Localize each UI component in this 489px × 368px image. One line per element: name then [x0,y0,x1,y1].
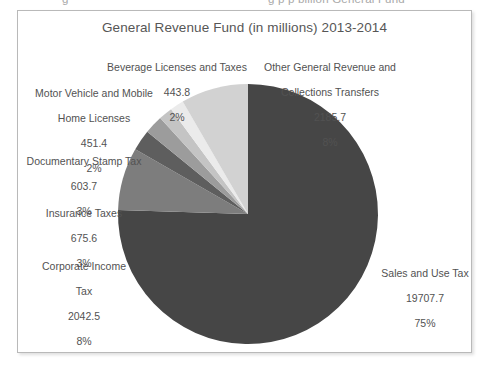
pie-label-other-general-name-line2: Collections Transfers [250,86,410,99]
pie-label-corporate-income-name-line2: Tax [9,285,159,298]
pie-label-sales-and-use-name: Sales and Use Tax [373,267,477,280]
pie-label-other-general-revenue-and-collections-transfers: Other General Revenue and Collections Tr… [250,48,410,161]
pie-label-insurance-value: 675.6 [9,232,159,245]
pie-label-sales-and-use-tax: Sales and Use Tax 19707.7 75% [373,254,477,342]
cropped-text-left: g [62,0,69,5]
pie-label-sales-and-use-value: 19707.7 [373,292,477,305]
pie-label-corporate-income-name-line1: Corporate Income [9,260,159,273]
pie-label-documentary-stamp-name: Documentary Stamp Tax [9,155,159,168]
pie-label-sales-and-use-percent: 75% [373,317,477,330]
pie-label-other-general-percent: 8% [250,136,410,149]
pie-label-corporate-income-percent: 8% [9,335,159,348]
cropped-page-text-above-chart: g g p p billion General Fund [0,0,489,6]
pie-label-beverage-name: Beverage Licenses and Taxes [92,61,262,74]
pie-label-motor-vehicle-name-line2: Home Licenses [14,112,174,125]
cropped-text-right: g p p billion General Fund [268,0,405,5]
pie-label-insurance-name: Insurance Taxes [9,207,159,220]
chart-frame: General Revenue Fund (in millions) 2013-… [17,10,472,353]
pie-label-documentary-stamp-value: 603.7 [9,180,159,193]
pie-label-other-general-value: 2185.7 [250,111,410,124]
pie-label-motor-vehicle-name-line1: Motor Vehicle and Mobile [14,87,174,100]
pie-label-corporate-income-tax: Corporate Income Tax 2042.5 8% [9,247,159,360]
pie-label-other-general-name-line1: Other General Revenue and [250,61,410,74]
pie-label-corporate-income-value: 2042.5 [9,310,159,323]
